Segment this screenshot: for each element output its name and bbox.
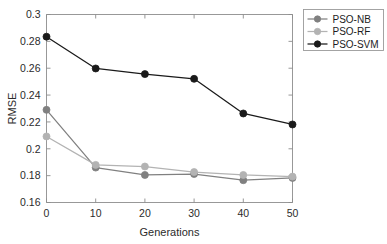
- data-point-marker: [289, 173, 296, 180]
- legend-marker-icon: [314, 41, 320, 47]
- data-point-marker: [141, 171, 148, 178]
- data-point-marker: [43, 133, 50, 140]
- legend-label: PSO-NB: [333, 14, 372, 25]
- y-tick-label: 0.22: [20, 116, 41, 128]
- chart-figure: 010203040500.160.180.20.220.240.260.280.…: [0, 0, 387, 244]
- x-tick-label: 30: [188, 207, 200, 219]
- data-point-marker: [141, 163, 148, 170]
- data-point-marker: [92, 161, 99, 168]
- legend-label: PSO-RF: [333, 26, 371, 37]
- y-axis-title: RMSE: [6, 93, 18, 125]
- y-tick-label: 0.3: [26, 8, 41, 20]
- y-tick-label: 0.2: [26, 143, 41, 155]
- x-tick-label: 50: [287, 207, 299, 219]
- data-point-marker: [191, 75, 198, 82]
- data-point-marker: [240, 110, 247, 117]
- data-point-marker: [289, 121, 296, 128]
- x-tick-label: 0: [44, 207, 50, 219]
- y-tick-label: 0.18: [20, 169, 41, 181]
- y-tick-label: 0.16: [20, 196, 41, 208]
- x-tick-label: 20: [139, 207, 151, 219]
- x-axis-title: Generations: [140, 226, 200, 238]
- legend-label: PSO-SVM: [333, 39, 379, 50]
- y-tick-label: 0.26: [20, 62, 41, 74]
- data-point-marker: [43, 106, 50, 113]
- line-chart: 010203040500.160.180.20.220.240.260.280.…: [0, 0, 387, 244]
- legend-marker-icon: [314, 16, 320, 22]
- y-tick-label: 0.24: [20, 89, 41, 101]
- x-tick-label: 10: [90, 207, 102, 219]
- legend-marker-icon: [314, 28, 320, 34]
- chart-legend: PSO-NBPSO-RFPSO-SVM: [304, 10, 384, 51]
- data-point-marker: [141, 71, 148, 78]
- data-point-marker: [92, 65, 99, 72]
- data-point-marker: [43, 33, 50, 40]
- x-tick-label: 40: [237, 207, 249, 219]
- data-point-marker: [240, 171, 247, 178]
- data-point-marker: [191, 169, 198, 176]
- y-tick-label: 0.28: [20, 35, 41, 47]
